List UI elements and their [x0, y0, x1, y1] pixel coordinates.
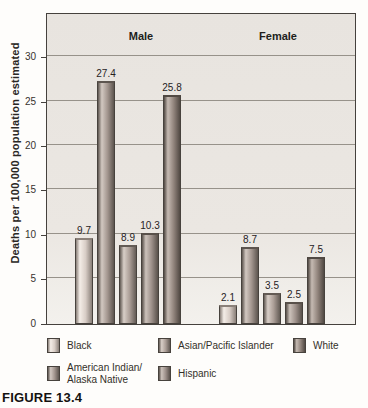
legend-label-asian-pacific-islander: Asian/Pacific Islander [178, 340, 274, 352]
legend-swatch-white [293, 338, 306, 353]
legend-item-white: White [293, 338, 339, 353]
legend-item-asian-pacific-islander: Asian/Pacific Islander [158, 338, 274, 353]
legend-label-american-indian-alaska-native: American Indian/ Alaska Native [67, 362, 142, 385]
legend-swatch-black [47, 338, 60, 353]
figure-13-4: Deaths per 100,000 population estimated … [0, 0, 368, 408]
legend-swatch-hispanic [158, 366, 171, 381]
legend-item-black: Black [47, 338, 91, 353]
legend-item-american-indian-alaska-native: American Indian/ Alaska Native [47, 362, 142, 385]
legend-label-hispanic: Hispanic [178, 368, 216, 380]
legend-item-hispanic: Hispanic [158, 366, 216, 381]
legend-swatch-american-indian-alaska-native [47, 366, 60, 381]
legend-swatch-asian-pacific-islander [158, 338, 171, 353]
legend: BlackAsian/Pacific IslanderWhiteAmerican… [0, 0, 368, 408]
figure-caption: FIGURE 13.4 [2, 390, 82, 405]
legend-label-black: Black [67, 340, 91, 352]
legend-label-white: White [313, 340, 339, 352]
